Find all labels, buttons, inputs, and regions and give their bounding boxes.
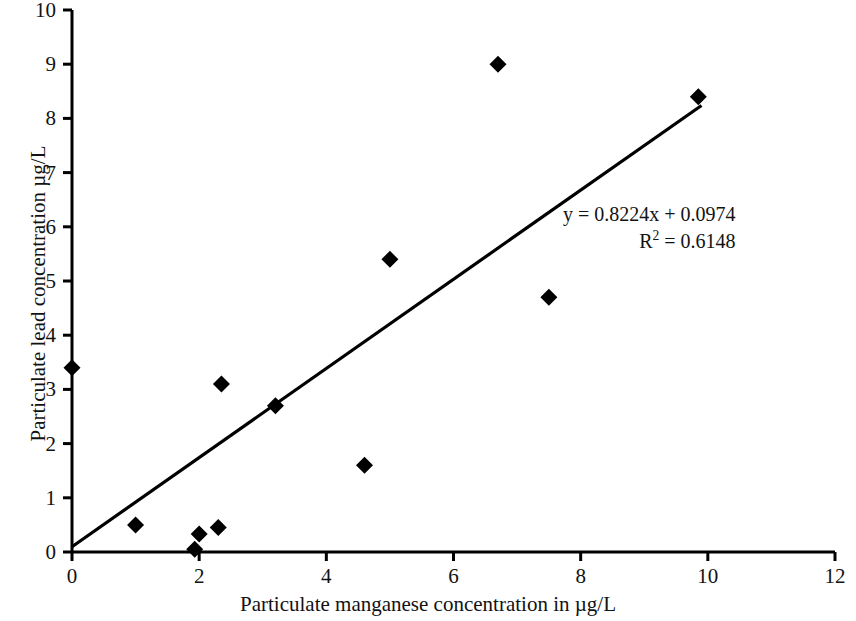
data-point <box>127 516 144 533</box>
x-tick-label: 0 <box>67 566 78 587</box>
axes-group <box>63 10 835 561</box>
x-tick-label: 10 <box>697 566 718 587</box>
x-tick-label: 6 <box>448 566 459 587</box>
data-point <box>356 457 373 474</box>
data-point <box>210 519 227 536</box>
scatter-plot-figure: 012345678910 024681012 Particulate lead … <box>0 0 856 621</box>
data-point <box>191 526 208 543</box>
regression-equation: y = 0.8224x + 0.0974 <box>563 201 736 228</box>
data-point <box>64 359 81 376</box>
y-tick-label: 0 <box>0 542 56 563</box>
x-tick-label: 8 <box>575 566 586 587</box>
trendline-annotation: y = 0.8224x + 0.0974 R2 = 0.6148 <box>563 201 736 255</box>
data-point <box>381 251 398 268</box>
trendline <box>72 105 701 546</box>
y-tick-label: 9 <box>0 54 56 75</box>
data-point <box>540 289 557 306</box>
data-point <box>213 375 230 392</box>
x-tick-label: 12 <box>825 566 846 587</box>
r-squared-prefix: R <box>639 230 652 252</box>
x-tick-label: 4 <box>321 566 332 587</box>
r-squared-number: = 0.6148 <box>659 230 735 252</box>
x-axis-title: Particulate manganese concentration in µ… <box>0 592 856 617</box>
trendline-segment <box>72 105 701 546</box>
x-tick-label: 2 <box>194 566 205 587</box>
data-markers <box>64 56 707 558</box>
plot-canvas <box>0 0 856 621</box>
data-point <box>690 88 707 105</box>
data-point <box>490 56 507 73</box>
y-tick-label: 10 <box>0 0 56 21</box>
y-axis-title: Particulate lead concentration µg/L <box>26 104 51 484</box>
r-squared-value: R2 = 0.6148 <box>563 228 736 255</box>
y-tick-label: 1 <box>0 487 56 508</box>
